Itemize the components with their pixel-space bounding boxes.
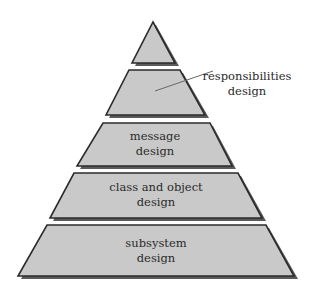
responsibilities-label-line2: design <box>203 84 292 99</box>
class-object-label-line1: class and object <box>109 180 202 195</box>
message-label-line1: message <box>130 129 181 144</box>
class-object-label-line2: design <box>109 195 202 210</box>
class-object-label: class and object design <box>109 180 202 210</box>
tier-apex <box>132 22 175 63</box>
message-label-line2: design <box>130 144 181 159</box>
subsystem-label-line1: subsystem <box>125 236 186 251</box>
message-label: message design <box>130 129 181 159</box>
responsibilities-label: responsibilities design <box>203 69 292 99</box>
tier-responsibilities <box>106 70 205 115</box>
subsystem-label: subsystem design <box>125 236 186 266</box>
subsystem-label-line2: design <box>125 251 186 266</box>
responsibilities-label-line1: responsibilities <box>203 69 292 84</box>
pyramid-diagram: responsibilities design message design c… <box>0 0 313 297</box>
